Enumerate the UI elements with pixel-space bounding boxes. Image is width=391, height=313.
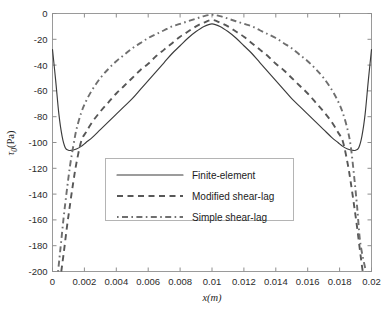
series-dashed xyxy=(61,20,362,272)
chart-figure: 00.0020.0040.0060.0080.010.0120.0140.016… xyxy=(0,0,391,313)
y-tick-label: -200 xyxy=(28,266,47,277)
legend-label: Simple shear-lag xyxy=(192,212,267,223)
y-tick-label: -60 xyxy=(34,85,48,96)
x-tick-label: 0.004 xyxy=(104,276,128,287)
x-tick-label: 0.014 xyxy=(264,276,288,287)
y-tick-label: -160 xyxy=(28,214,47,225)
x-tick-label: 0.006 xyxy=(136,276,160,287)
data-series-group xyxy=(53,15,372,272)
x-tick-label: 0.018 xyxy=(328,276,352,287)
x-tick-label: 0.012 xyxy=(232,276,256,287)
chart-plot-svg: 00.0020.0040.0060.0080.010.0120.0140.016… xyxy=(0,0,391,313)
y-tick-label: -140 xyxy=(28,189,47,200)
y-tick-label: 0 xyxy=(42,8,47,19)
series-solid xyxy=(53,24,372,151)
x-tick-label: 0.016 xyxy=(296,276,320,287)
y-tick-label: -120 xyxy=(28,163,47,174)
x-tick-label: 0.02 xyxy=(362,276,381,287)
x-tick-label: 0 xyxy=(50,276,55,287)
plot-frame xyxy=(53,14,372,272)
svg-text:τ0(Pa): τ0(Pa) xyxy=(5,130,19,156)
y-tick-label: -100 xyxy=(28,137,47,148)
y-axis-title-unit: (Pa) xyxy=(5,130,17,148)
y-tick-label: -40 xyxy=(34,60,48,71)
y-axis-tick-labels: 0-20-40-60-80-100-120-140-160-180-200 xyxy=(28,8,47,277)
y-tick-label: -180 xyxy=(28,240,47,251)
x-axis-tickmarks xyxy=(53,14,372,272)
x-tick-label: 0.002 xyxy=(73,276,97,287)
series-dashdot xyxy=(58,15,366,272)
y-tick-label: -20 xyxy=(34,34,48,45)
x-axis-title: x(m) xyxy=(201,292,222,304)
y-axis-tickmarks xyxy=(53,14,372,272)
y-tick-label: -80 xyxy=(34,111,48,122)
x-tick-label: 0.01 xyxy=(203,276,222,287)
x-tick-label: 0.008 xyxy=(168,276,192,287)
legend-label: Modified shear-lag xyxy=(192,191,274,202)
y-axis-title: τ0(Pa) xyxy=(5,130,19,156)
x-axis-tick-labels: 00.0020.0040.0060.0080.010.0120.0140.016… xyxy=(50,276,381,287)
legend-label: Finite-element xyxy=(192,170,256,181)
legend: Finite-elementModified shear-lagSimple s… xyxy=(106,159,294,223)
